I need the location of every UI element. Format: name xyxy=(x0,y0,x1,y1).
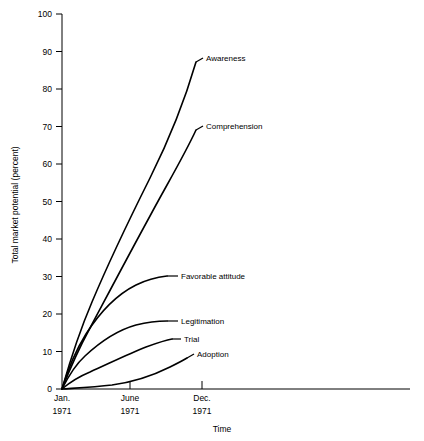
series-label-awareness: Awareness xyxy=(206,54,245,63)
x-tick-label-jan-year: 1971 xyxy=(53,406,72,416)
y-tick-label-60: 60 xyxy=(43,159,53,169)
leader-line-awareness xyxy=(196,58,203,62)
y-axis-title: Total market potential (percent) xyxy=(10,146,20,263)
y-tick-label-80: 80 xyxy=(43,84,53,94)
series-curve-adoption xyxy=(62,358,187,389)
leader-line-comprehension xyxy=(196,126,203,130)
y-tick-label-100: 100 xyxy=(38,9,52,19)
x-tick-label-dec-year: 1971 xyxy=(193,406,212,416)
y-tick-label-0: 0 xyxy=(47,384,52,394)
x-tick-label-dec-month: Dec. xyxy=(193,393,210,403)
y-tick-label-50: 50 xyxy=(43,197,53,207)
series-label-comprehension: Comprehension xyxy=(206,122,262,131)
chart-container: 0 10 20 30 40 50 60 70 80 90 100 Jan. 19… xyxy=(0,0,424,441)
y-axis-ticks xyxy=(56,14,62,389)
series-label-adoption: Adoption xyxy=(197,350,229,359)
y-tick-label-90: 90 xyxy=(43,47,53,57)
series-curve-favorable-attitude xyxy=(62,276,167,389)
leader-line-adoption xyxy=(187,354,194,358)
y-tick-label-20: 20 xyxy=(43,309,53,319)
y-tick-label-70: 70 xyxy=(43,122,53,132)
series-curve-comprehension xyxy=(62,130,196,389)
y-tick-label-10: 10 xyxy=(43,347,53,357)
series-label-trial: Trial xyxy=(184,335,199,344)
x-axis-title: Time xyxy=(213,424,232,434)
x-axis-ticks xyxy=(130,381,202,389)
series-label-favorable-attitude: Favorable attitude xyxy=(181,272,246,281)
x-tick-label-june-year: 1971 xyxy=(121,406,140,416)
x-tick-label-jan-month: Jan. xyxy=(54,393,70,403)
x-tick-label-june-month: June xyxy=(121,393,140,403)
y-tick-label-30: 30 xyxy=(43,272,53,282)
y-tick-label-40: 40 xyxy=(43,234,53,244)
line-chart: 0 10 20 30 40 50 60 70 80 90 100 Jan. 19… xyxy=(0,0,424,441)
series-label-legitimation: Legitimation xyxy=(181,317,224,326)
